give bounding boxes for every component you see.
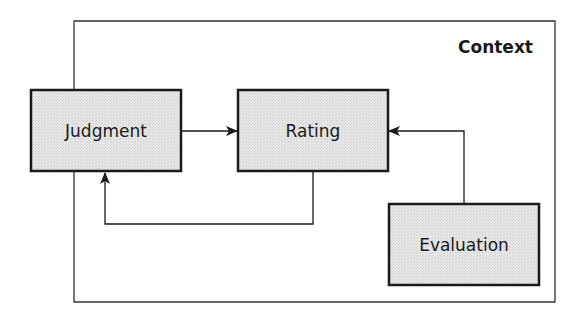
node-evaluation-label: Evaluation — [419, 235, 509, 255]
node-judgment-label: Judgment — [64, 121, 147, 141]
diagram-canvas: Context Judgment Rating Evaluation — [0, 0, 584, 316]
node-rating: Rating — [238, 90, 388, 171]
node-judgment: Judgment — [31, 90, 181, 171]
context-label: Context — [458, 37, 533, 57]
node-rating-label: Rating — [286, 121, 341, 141]
node-evaluation: Evaluation — [389, 204, 539, 285]
edge-evaluation-to-rating — [389, 131, 464, 203]
edge-rating-to-judgment — [105, 172, 313, 224]
